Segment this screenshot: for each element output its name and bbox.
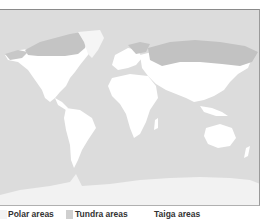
polar-swatch-icon — [0, 210, 7, 219]
australia — [204, 124, 236, 148]
tundra-canada — [25, 32, 88, 56]
legend-tundra-label: Tundra areas — [75, 209, 128, 219]
world-map-graphic — [0, 10, 260, 206]
tundra-swatch-icon — [66, 210, 73, 219]
legend-polar-label: Polar areas — [8, 209, 54, 219]
map-legend: Polar areas Tundra areas Taiga areas — [0, 208, 261, 222]
legend-taiga-label: Taiga areas — [154, 209, 200, 219]
south-america — [64, 108, 96, 168]
africa — [108, 74, 158, 138]
world-map — [0, 9, 260, 206]
tundra-siberia — [148, 40, 258, 66]
antarctica — [0, 174, 260, 206]
taiga-swatch-icon — [146, 210, 153, 219]
